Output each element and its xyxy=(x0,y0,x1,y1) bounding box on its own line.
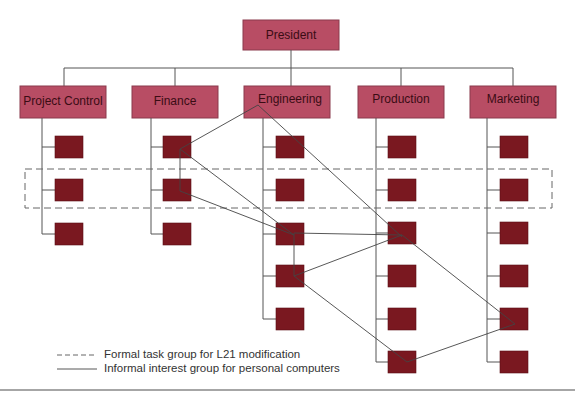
subordinates-marketing xyxy=(487,118,528,373)
subordinate-box xyxy=(55,179,83,201)
legend-informal-label: Informal interest group for personal com… xyxy=(104,362,340,374)
department-engineering: Engineering xyxy=(244,86,330,118)
subordinates-engineering xyxy=(263,118,304,330)
subordinate-box xyxy=(163,136,191,158)
subordinate-box xyxy=(276,179,304,201)
subordinate-box xyxy=(500,351,528,373)
president-label: President xyxy=(266,28,317,42)
informal-interest-group-lines xyxy=(180,105,515,362)
subordinate-box xyxy=(276,308,304,330)
subordinate-box xyxy=(388,136,416,158)
subordinate-box xyxy=(163,179,191,201)
subordinate-box xyxy=(500,222,528,244)
subordinate-box xyxy=(388,222,416,244)
department-label: Production xyxy=(372,92,429,106)
subordinates-finance xyxy=(151,118,191,245)
department-label: Project Control xyxy=(23,94,102,108)
department-label: Engineering xyxy=(258,92,322,106)
subordinate-box xyxy=(388,351,416,373)
department-label: Marketing xyxy=(487,92,540,106)
subordinate-box xyxy=(163,223,191,245)
subordinates-project-control xyxy=(42,118,83,245)
hierarchy-connectors xyxy=(64,50,513,86)
subordinate-box xyxy=(55,223,83,245)
department-production: Production xyxy=(358,86,444,118)
department-project-control: Project Control xyxy=(20,86,106,118)
subordinate-box xyxy=(500,179,528,201)
subordinate-box xyxy=(500,308,528,330)
subordinate-box xyxy=(276,265,304,287)
department-finance: Finance xyxy=(132,86,218,118)
president-node: President xyxy=(243,20,339,50)
subordinate-box xyxy=(276,223,304,245)
org-chart-diagram: President Project Control Finance Engine… xyxy=(0,0,575,401)
subordinate-box xyxy=(388,308,416,330)
subordinate-box xyxy=(55,136,83,158)
subordinate-box xyxy=(500,136,528,158)
department-label: Finance xyxy=(154,94,197,108)
subordinate-box xyxy=(388,179,416,201)
subordinate-box xyxy=(500,265,528,287)
legend-formal-label: Formal task group for L21 modification xyxy=(104,348,300,360)
subordinates-production xyxy=(376,118,416,373)
subordinate-box xyxy=(276,136,304,158)
subordinate-box xyxy=(388,265,416,287)
legend: Formal task group for L21 modification I… xyxy=(57,348,340,374)
department-marketing: Marketing xyxy=(470,86,556,118)
